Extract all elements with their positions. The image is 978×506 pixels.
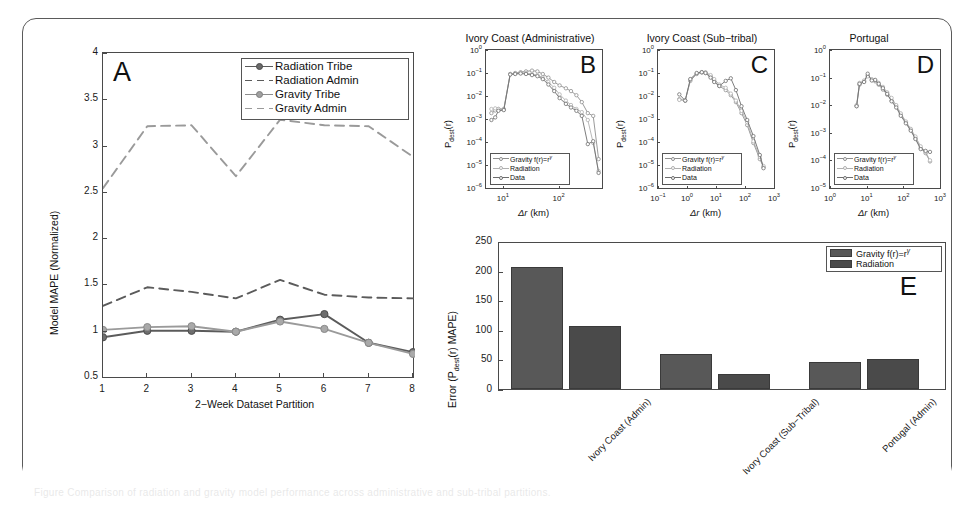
panel-c-legend-row: Data	[663, 173, 741, 183]
panel-c-xtick: 101	[702, 192, 730, 203]
panel-c-ytick-mark	[657, 96, 660, 97]
panel-a-ytick: 1	[54, 324, 98, 335]
panel-c-xtick: 102	[731, 192, 759, 203]
panel-b-marker	[580, 100, 583, 103]
panel-c-ytick: 100	[620, 44, 654, 55]
panel-a-ytick: 3.5	[54, 92, 98, 103]
circle-marker-icon	[256, 91, 263, 98]
panel-b-marker	[514, 72, 517, 75]
panel-c-xtick-mark	[774, 186, 775, 189]
panel-c-ytick: 10−3	[620, 113, 654, 124]
panel-e-ytick-mark	[498, 301, 503, 302]
panel-b-marker	[564, 99, 567, 102]
panel-d-marker	[924, 149, 927, 152]
panel-a: Model MAPE (Normalized) A Radiation Trib…	[40, 30, 430, 420]
panel-b-marker	[530, 73, 533, 76]
legend-line-marker-icon	[837, 154, 853, 163]
panel-b-marker	[592, 140, 595, 143]
panel-e-ytick: 150	[458, 294, 492, 305]
panel-c-xtick-mark	[658, 186, 659, 189]
panel-b-marker	[569, 89, 572, 92]
panel-d-ytick: 10−1	[792, 72, 826, 83]
panel-a-legend-row: Gravity Admin	[242, 101, 408, 115]
panel-e-ytick: 50	[458, 353, 492, 364]
panel-d-marker	[890, 100, 893, 103]
panel-d-xtick-mark	[940, 186, 941, 189]
panel-b-marker	[490, 118, 493, 121]
panel-d-xlabel: Δr (km)	[858, 207, 889, 218]
panel-c-marker	[740, 105, 743, 108]
panel-b-marker	[490, 107, 493, 110]
panel-e-ytick-mark	[498, 242, 503, 243]
dashed-line-icon	[245, 108, 273, 110]
panel-c-marker	[695, 71, 698, 74]
legend-line-marker-icon	[665, 154, 681, 163]
panel-b-marker	[553, 89, 556, 92]
panel-a-legend-row: Radiation Tribe	[242, 59, 408, 73]
legend-swatch-icon	[830, 249, 852, 257]
panel-e-bar	[569, 326, 621, 389]
panel-d-letter: D	[917, 51, 934, 79]
panel-b-marker	[536, 75, 539, 78]
panel-c-marker	[724, 86, 727, 89]
panel-c-legend-row: Radiation	[663, 164, 741, 174]
panel-c-series-1	[679, 72, 763, 166]
panel-c-marker	[746, 118, 749, 121]
panel-b-ytick-mark	[485, 50, 488, 51]
legend-line-marker-icon	[493, 173, 509, 182]
panel-b-marker	[547, 83, 550, 86]
panel-c-marker	[700, 71, 703, 74]
panel-b-marker	[580, 114, 583, 117]
panel-a-xtick: 8	[400, 383, 424, 394]
panel-c-marker	[734, 88, 737, 91]
panel-d-marker	[862, 80, 865, 83]
panel-c-ytick: 10−1	[620, 67, 654, 78]
panel-b-marker	[509, 73, 512, 76]
panel-d-legend-row: Data	[835, 173, 913, 183]
legend-sample-icon	[245, 60, 273, 72]
panel-c-marker	[678, 98, 681, 101]
panel-b-ytick: 100	[448, 44, 482, 55]
panel-c-marker	[709, 76, 712, 79]
panel-b-ytick: 10−3	[448, 113, 482, 124]
panel-a-xtick-mark	[235, 373, 236, 378]
panel-b-ytick-mark	[485, 188, 488, 189]
panel-c-marker	[729, 77, 732, 80]
panel-c: Ivory Coast (Sub−tribal) Pdest(r) C Grav…	[612, 30, 784, 230]
panel-b-marker	[558, 84, 561, 87]
panel-e-bar	[511, 267, 563, 390]
panel-d-axes: D Gravity f(r)=rγRadiationData	[829, 49, 941, 189]
panel-a-marker	[409, 350, 415, 357]
panel-d-ytick: 100	[792, 44, 826, 55]
panel-b-xtick-mark	[559, 186, 560, 189]
panel-c-marker	[718, 84, 721, 87]
panel-a-marker	[321, 325, 328, 332]
panel-b-ytick: 10−1	[448, 67, 482, 78]
panel-d-marker	[895, 106, 898, 109]
panel-b-marker	[558, 96, 561, 99]
panel-a-marker	[277, 318, 284, 325]
panel-b-marker	[502, 108, 505, 111]
panel-a-xlabel: 2−Week Dataset Partition	[195, 398, 314, 410]
panel-d-marker	[928, 150, 931, 153]
panel-a-legend: Radiation TribeRadiation AdminGravity Tr…	[241, 58, 409, 120]
panel-d-legend-row: Gravity f(r)=rγ	[835, 154, 913, 164]
panel-b-marker	[490, 111, 493, 114]
panel-a-xtick: 7	[356, 383, 380, 394]
panel-e-ytick: 0	[458, 383, 492, 394]
panel-d-xtick: 103	[926, 192, 954, 203]
panel-c-ytick-mark	[657, 73, 660, 74]
panel-a-legend-label: Gravity Tribe	[273, 88, 340, 100]
panel-a-xtick: 2	[134, 383, 158, 394]
panel-b-legend: Gravity f(r)=rγRadiationData	[490, 153, 570, 185]
panel-d-legend-label: Data	[853, 174, 869, 181]
panel-d-ytick-mark	[829, 50, 832, 51]
panel-b-marker	[564, 87, 567, 90]
panel-b-xtick: 102	[545, 192, 573, 203]
panel-b-marker	[586, 111, 589, 114]
panel-a-ytick: 2.5	[54, 185, 98, 196]
panel-a-xtick-mark	[191, 373, 192, 378]
panel-d-xtick: 100	[816, 192, 844, 203]
panel-c-axes: C Gravity f(r)=rγRadiationData	[657, 49, 775, 189]
panel-b-xtick-mark	[503, 186, 504, 189]
